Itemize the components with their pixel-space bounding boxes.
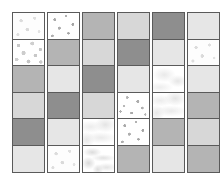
cell-r4c5 xyxy=(153,93,184,120)
cell-r6c1 xyxy=(13,146,44,173)
cell-r3c2 xyxy=(48,66,79,93)
cell-r6c4 xyxy=(118,146,149,173)
cell-r3c1 xyxy=(13,66,44,93)
swatch-grid xyxy=(12,12,219,173)
column-1 xyxy=(12,12,45,173)
cell-r4c4 xyxy=(118,93,149,120)
cell-r1c3 xyxy=(83,13,114,40)
cell-r5c1 xyxy=(13,119,44,146)
cell-r2c3 xyxy=(83,40,114,67)
cell-r5c2 xyxy=(48,119,79,146)
cell-r4c1 xyxy=(13,93,44,120)
cell-r5c3 xyxy=(83,119,114,146)
column-3 xyxy=(82,12,115,173)
cell-r4c6 xyxy=(188,93,219,120)
cell-r2c1 xyxy=(13,40,44,67)
column-6 xyxy=(187,12,219,173)
cell-r1c4 xyxy=(118,13,149,40)
cell-r5c6 xyxy=(188,119,219,146)
cell-r1c6 xyxy=(188,13,219,40)
cell-r5c5 xyxy=(153,119,184,146)
cell-r1c2 xyxy=(48,13,79,40)
cell-r3c6 xyxy=(188,66,219,93)
cell-r3c4 xyxy=(118,66,149,93)
cell-r1c5 xyxy=(153,13,184,40)
cell-r1c1 xyxy=(13,13,44,40)
cell-r6c5 xyxy=(153,146,184,173)
column-4 xyxy=(117,12,150,173)
cell-r4c3 xyxy=(83,93,114,120)
cell-r5c4 xyxy=(118,119,149,146)
cell-r6c3 xyxy=(83,146,114,173)
cell-r2c5 xyxy=(153,40,184,67)
cell-r2c6 xyxy=(188,40,219,67)
column-2 xyxy=(47,12,80,173)
cell-r6c2 xyxy=(48,146,79,173)
cell-r2c4 xyxy=(118,40,149,67)
cell-r2c2 xyxy=(48,40,79,67)
cell-r3c5 xyxy=(153,66,184,93)
cell-r3c3 xyxy=(83,66,114,93)
cell-r4c2 xyxy=(48,93,79,120)
column-5 xyxy=(152,12,185,173)
cell-r6c6 xyxy=(188,146,219,173)
